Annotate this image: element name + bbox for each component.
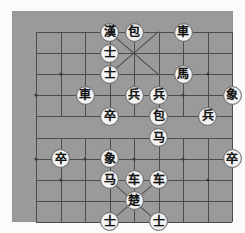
star-point	[59, 73, 62, 76]
piece-glyph: 士	[104, 216, 116, 228]
piece-horse[interactable]: 马	[149, 128, 168, 147]
piece-pawn[interactable]: 卒	[100, 107, 119, 126]
piece-pawn[interactable]: 卒	[223, 149, 242, 168]
star-point	[59, 178, 62, 181]
star-point	[206, 73, 209, 76]
star-point	[206, 178, 209, 181]
piece-horse[interactable]: 馬	[174, 65, 193, 84]
star-point	[35, 157, 38, 160]
star-point	[182, 94, 185, 97]
piece-glyph: 兵	[202, 110, 214, 122]
file-line	[36, 32, 37, 222]
piece-glyph: 兵	[153, 89, 165, 101]
piece-soldier[interactable]: 兵	[149, 86, 168, 105]
piece-general-han[interactable]: 漢	[100, 23, 119, 42]
piece-glyph: 車	[79, 89, 91, 101]
file-line-lower	[85, 138, 86, 222]
piece-glyph: 卒	[104, 110, 116, 122]
piece-soldier[interactable]: 兵	[198, 107, 217, 126]
xiangqi-board-panel[interactable]: 漢包車士士馬車兵兵象卒包兵马卒象卒马车车楚士士	[12, 11, 233, 222]
file-line	[232, 32, 233, 222]
piece-soldier[interactable]: 兵	[125, 86, 144, 105]
piece-glyph: 车	[153, 174, 165, 186]
piece-glyph: 士	[153, 216, 165, 228]
xiangqi-screenshot: 漢包車士士馬車兵兵象卒包兵马卒象卒马车车楚士士	[0, 0, 245, 233]
piece-chariot[interactable]: 车	[149, 170, 168, 189]
rank-line	[36, 222, 232, 223]
piece-elephant[interactable]: 象	[223, 86, 242, 105]
piece-chariot[interactable]: 车	[125, 170, 144, 189]
piece-advisor[interactable]: 士	[100, 44, 119, 63]
piece-cannon[interactable]: 包	[125, 23, 144, 42]
piece-glyph: 士	[104, 68, 116, 80]
piece-glyph: 卒	[55, 153, 67, 165]
piece-glyph: 马	[104, 174, 116, 186]
piece-glyph: 楚	[128, 195, 140, 207]
piece-glyph: 士	[104, 47, 116, 59]
piece-chariot[interactable]: 車	[76, 86, 95, 105]
piece-advisor[interactable]: 士	[100, 65, 119, 84]
piece-glyph: 包	[128, 26, 140, 38]
piece-glyph: 漢	[104, 26, 116, 38]
piece-glyph: 包	[153, 110, 165, 122]
piece-glyph: 馬	[177, 68, 189, 80]
star-point	[133, 157, 136, 160]
board-grid[interactable]: 漢包車士士馬車兵兵象卒包兵马卒象卒马车车楚士士	[36, 32, 232, 222]
piece-elephant[interactable]: 象	[100, 149, 119, 168]
piece-glyph: 車	[177, 26, 189, 38]
star-point	[84, 157, 87, 160]
piece-glyph: 象	[104, 153, 116, 165]
piece-cannon[interactable]: 包	[149, 107, 168, 126]
piece-glyph: 兵	[128, 89, 140, 101]
piece-glyph: 象	[226, 89, 238, 101]
star-point	[182, 157, 185, 160]
piece-pawn[interactable]: 卒	[51, 149, 70, 168]
file-line-lower	[183, 138, 184, 222]
piece-glyph: 车	[128, 174, 140, 186]
piece-glyph: 马	[153, 132, 165, 144]
piece-general-chu[interactable]: 楚	[125, 191, 144, 210]
piece-chariot[interactable]: 車	[174, 23, 193, 42]
star-point	[35, 94, 38, 97]
piece-glyph: 卒	[226, 153, 238, 165]
